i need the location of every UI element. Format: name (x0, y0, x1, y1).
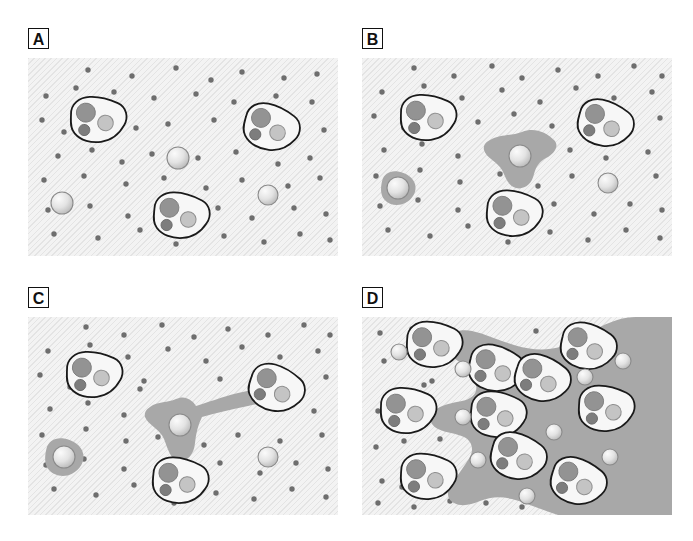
sphere-body (602, 449, 618, 465)
matrix-dot (165, 346, 170, 351)
free-sphere (391, 344, 407, 360)
matrix-dot (659, 73, 664, 78)
matrix-dot (415, 197, 420, 202)
matrix-dot (611, 95, 616, 100)
matrix-dot (191, 334, 196, 339)
matrix-dot (159, 322, 164, 327)
sphere-body (258, 447, 278, 467)
panel-a-graphic (28, 58, 338, 256)
matrix-dot (377, 203, 382, 208)
matrix-dot (373, 173, 378, 178)
free-sphere (598, 173, 618, 193)
panel-label-d: D (362, 287, 383, 308)
cell (151, 455, 210, 505)
panel-c: C (28, 287, 338, 485)
matrix-dot (323, 494, 328, 499)
matrix-dot (325, 466, 330, 471)
matrix-dot (657, 115, 662, 120)
matrix-dot (314, 71, 319, 76)
panel-label-c: C (28, 287, 49, 308)
cell (378, 383, 440, 437)
cell (241, 101, 302, 153)
matrix-dot (273, 93, 278, 98)
matrix-dot (327, 332, 332, 337)
sphere-body (51, 192, 73, 214)
free-sphere (51, 192, 73, 214)
matrix-dot (61, 129, 66, 134)
matrix-dot (627, 201, 632, 206)
matrix-dot (307, 155, 312, 160)
matrix-dot (239, 69, 244, 74)
free-sphere (258, 447, 278, 467)
matrix-dot (225, 326, 230, 331)
matrix-dot (379, 89, 384, 94)
free-sphere (258, 185, 278, 205)
matrix-dot (217, 376, 222, 381)
matrix-dot (645, 149, 650, 154)
matrix-dot (537, 99, 542, 104)
sphere-body (258, 185, 278, 205)
matrix-dot (315, 348, 320, 353)
matrix-dot (155, 434, 160, 439)
cell-vacuole (586, 343, 603, 360)
cell-vacuole (497, 410, 514, 427)
matrix-dot (215, 205, 220, 210)
matrix-dot (221, 233, 226, 238)
matrix-dot (567, 147, 572, 152)
figure-root: A B (0, 0, 693, 541)
cell-vacuole (179, 476, 196, 493)
matrix-dot (239, 177, 244, 182)
matrix-dot (89, 147, 94, 152)
matrix-dot (195, 155, 200, 160)
sphere-body (53, 446, 75, 468)
matrix-dot (649, 89, 654, 94)
panel-d-graphic (362, 317, 672, 515)
matrix-dot (55, 153, 60, 158)
matrix-dot (419, 141, 424, 146)
cell-granule (478, 418, 490, 430)
matrix-dot (137, 386, 142, 391)
matrix-dot (317, 175, 322, 180)
matrix-dot (129, 73, 134, 78)
sphere-body (546, 424, 562, 440)
panel-label-a: A (28, 28, 49, 49)
matrix-dot (465, 223, 470, 228)
matrix-dot (417, 167, 422, 172)
panel-b: B (362, 28, 672, 226)
free-sphere (455, 409, 471, 425)
free-sphere (546, 424, 562, 440)
sphere-body (577, 369, 593, 385)
panel-b-graphic (362, 58, 672, 256)
matrix-dot (373, 444, 378, 449)
cell-vacuole (513, 209, 530, 226)
panel-c-graphic (28, 317, 338, 515)
matrix-dot (121, 412, 126, 417)
free-sphere (169, 414, 191, 436)
matrix-dot (43, 93, 48, 98)
matrix-dot (277, 438, 282, 443)
free-sphere (470, 452, 486, 468)
free-sphere (387, 177, 409, 199)
matrix-dot (111, 89, 116, 94)
matrix-dot (293, 460, 298, 465)
cell-granule (160, 484, 172, 496)
free-sphere (455, 361, 471, 377)
sphere-body (391, 344, 407, 360)
cell (398, 90, 460, 144)
matrix-dot (483, 500, 488, 505)
sphere-body (455, 361, 471, 377)
cell-vacuole (494, 365, 511, 382)
matrix-dot (289, 486, 294, 491)
matrix-dot (203, 185, 208, 190)
matrix-dot (375, 408, 380, 413)
matrix-dot (323, 211, 328, 216)
matrix-dot (379, 478, 384, 483)
matrix-dot (173, 65, 178, 70)
matrix-dot (475, 119, 480, 124)
matrix-dot (249, 215, 254, 220)
sphere-body (387, 177, 409, 199)
cell (68, 92, 130, 146)
matrix-dot (211, 117, 216, 122)
sphere-body (470, 452, 486, 468)
matrix-dot (411, 65, 416, 70)
